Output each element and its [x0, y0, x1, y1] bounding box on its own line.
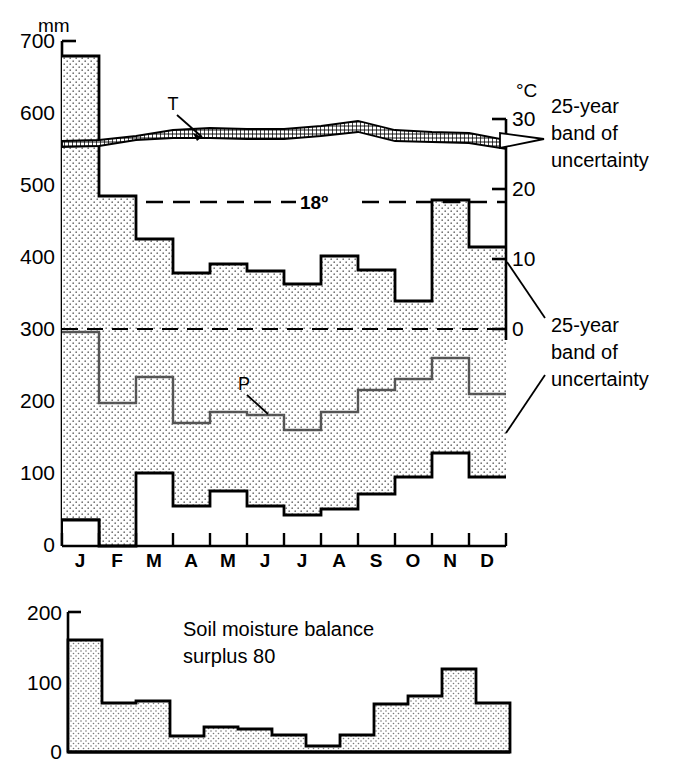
- month-label-may: M: [220, 550, 236, 571]
- month-label-oct: O: [406, 550, 421, 571]
- left-tick-label-600: 600: [20, 101, 55, 124]
- month-label-jul: J: [297, 550, 308, 571]
- month-label-jan: J: [75, 550, 86, 571]
- month-label-mar: M: [146, 550, 162, 571]
- month-label-nov: N: [443, 550, 457, 571]
- left-tick-label-700: 700: [20, 29, 55, 52]
- threshold-label: 18º: [300, 192, 328, 213]
- left-tick-label-100: 100: [20, 461, 55, 484]
- left-tick-label-400: 400: [20, 245, 55, 268]
- soil-tick-label-100: 100: [27, 671, 62, 694]
- left-tick-label-300: 300: [20, 317, 55, 340]
- soil-tick-label-200: 200: [27, 601, 62, 624]
- left-tick-label-500: 500: [20, 173, 55, 196]
- month-label-dec: D: [480, 550, 494, 571]
- month-label-aug: A: [332, 550, 346, 571]
- month-label-jun: J: [260, 550, 271, 571]
- right-tick-label-10: 10: [512, 247, 535, 270]
- month-label-feb: F: [111, 550, 123, 571]
- right-tick-label-0: 0: [512, 317, 524, 340]
- precipitation-series-label: P: [238, 374, 250, 394]
- temperature-annotation-line-1: 25-year: [551, 95, 619, 117]
- month-label-sep: S: [370, 550, 383, 571]
- right-tick-label-30: 30: [512, 107, 535, 130]
- month-label-apr: A: [184, 550, 198, 571]
- climate-diagram: mm 700 600 500 400 300 200 100 0: [0, 0, 698, 775]
- left-tick-label-200: 200: [20, 389, 55, 412]
- precipitation-annotation-line-1: 25-year: [551, 314, 619, 336]
- climate-figure-svg: mm 700 600 500 400 300 200 100 0: [0, 0, 698, 775]
- right-axis-unit-label: °C: [516, 80, 537, 101]
- soil-title-line-1: Soil moisture balance: [183, 618, 374, 640]
- temperature-series-label: T: [168, 94, 179, 114]
- temperature-annotation-line-3: uncertainty: [551, 149, 649, 171]
- right-tick-label-20: 20: [512, 177, 535, 200]
- precipitation-annotation-line-2: band of: [551, 341, 618, 363]
- soil-tick-label-0: 0: [50, 740, 62, 763]
- soil-title-line-2: surplus 80: [183, 645, 275, 667]
- precipitation-annotation-line-3: uncertainty: [551, 368, 649, 390]
- jan-lower-clear-area: [63, 520, 99, 546]
- temperature-annotation-line-2: band of: [551, 122, 618, 144]
- left-tick-label-0: 0: [43, 533, 55, 556]
